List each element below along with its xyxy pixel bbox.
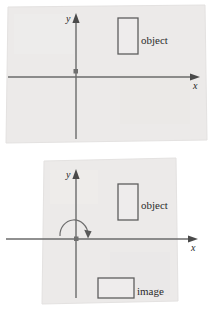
object-rectangle — [118, 18, 138, 54]
object-rectangle — [118, 184, 138, 220]
panel-top: y x object — [0, 4, 209, 146]
origin-point — [74, 237, 79, 242]
image-label: image — [137, 285, 164, 297]
paper-background — [6, 5, 207, 143]
object-label: object — [141, 34, 168, 46]
y-axis-label: y — [65, 169, 71, 180]
x-axis-label: x — [190, 242, 196, 253]
y-axis-label: y — [65, 13, 71, 24]
origin-point — [74, 69, 79, 74]
object-label: object — [141, 199, 168, 211]
figure-container: y x object — [0, 0, 209, 315]
panel-bottom: y x object — [0, 156, 209, 308]
x-axis-label: x — [192, 80, 198, 91]
image-rectangle — [98, 278, 134, 298]
